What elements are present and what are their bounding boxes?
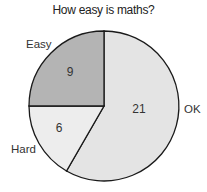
slice-value-ok: 21 <box>132 102 146 116</box>
slice-label-easy: Easy <box>26 38 52 50</box>
slice-label-hard: Hard <box>11 143 36 155</box>
pie-chart: 9 6 21 Easy Hard OK <box>0 0 207 192</box>
slice-value-easy: 9 <box>67 65 74 79</box>
slice-label-ok: OK <box>184 103 201 115</box>
slice-value-hard: 6 <box>56 121 63 135</box>
